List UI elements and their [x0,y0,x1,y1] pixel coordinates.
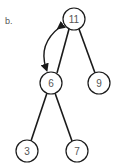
svg-text:6: 6 [48,78,54,89]
tree-node-11: 11 [63,8,85,30]
edge-6-7 [55,93,72,141]
tree-node-7: 7 [66,140,88,162]
swap-arrow-icon [44,27,60,68]
edge-11-9 [79,29,95,73]
tree-node-9: 9 [88,72,110,94]
edge-6-3 [31,93,47,141]
svg-text:9: 9 [96,78,102,89]
svg-text:3: 3 [24,146,30,157]
tree-node-3: 3 [16,140,38,162]
svg-text:7: 7 [74,146,80,157]
svg-text:11: 11 [69,14,80,25]
binary-tree-diagram: 11 6 9 3 7 [0,0,118,168]
edge-11-6 [57,29,69,73]
tree-node-6: 6 [40,72,62,94]
